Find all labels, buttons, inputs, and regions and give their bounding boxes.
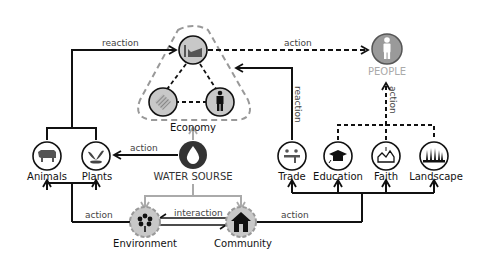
church-icon bbox=[372, 142, 400, 170]
plant-icon bbox=[82, 142, 110, 170]
factory-icon bbox=[179, 36, 207, 64]
people-label: PEOPLE bbox=[368, 66, 406, 77]
trade-label: Trade bbox=[278, 171, 305, 182]
faith-label: Faith bbox=[374, 171, 398, 182]
edge-label-reaction-vertical: reaction bbox=[293, 86, 303, 123]
environment-label: Environment bbox=[113, 238, 177, 249]
edge-label-action-water-plants: action bbox=[130, 143, 158, 153]
trade-icon bbox=[278, 142, 306, 170]
edge-label-action-top: action bbox=[284, 38, 312, 48]
edge-label-action-people: action bbox=[388, 86, 398, 114]
water-source-label: WATER SOURSE bbox=[153, 171, 232, 182]
edge-label-reaction-top: reaction bbox=[102, 38, 139, 48]
landscape-label: Landscape bbox=[409, 171, 463, 182]
flower-icon bbox=[130, 207, 160, 237]
graduation-cap-icon bbox=[324, 142, 352, 170]
worker-icon bbox=[206, 88, 234, 116]
crosshatch-icon bbox=[149, 88, 177, 116]
diagram-canvas bbox=[0, 0, 481, 259]
edge-label-action-bottom-left: action bbox=[85, 210, 113, 220]
water-drop-icon bbox=[179, 141, 207, 169]
animals-label: Animals bbox=[27, 171, 67, 182]
edge-label-interaction: interaction bbox=[174, 208, 223, 218]
community-label: Community bbox=[214, 238, 272, 249]
edge-label-action-bottom-right: action bbox=[281, 210, 309, 220]
person-icon bbox=[372, 34, 402, 64]
cow-icon bbox=[33, 142, 61, 170]
plants-label: Plants bbox=[82, 171, 112, 182]
house-icon bbox=[226, 207, 256, 237]
education-label: Education bbox=[313, 171, 363, 182]
trees-icon bbox=[420, 142, 448, 170]
economy-label: Economy bbox=[170, 122, 216, 133]
